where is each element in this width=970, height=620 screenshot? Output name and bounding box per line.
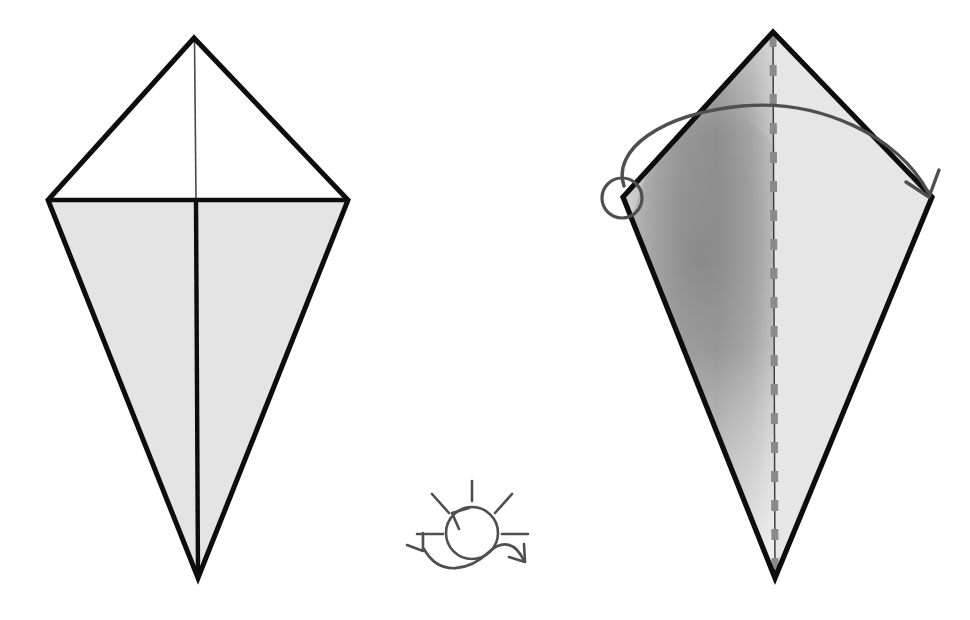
origami-diagram-svg [0,0,970,620]
lower-vertical-crease [196,199,198,576]
diagram-canvas: Origami Fold Instruction Diagram [0,0,970,620]
